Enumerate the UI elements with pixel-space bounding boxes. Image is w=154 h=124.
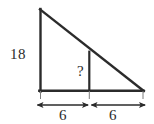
base-left-length-label: 6: [59, 108, 67, 123]
base-right-length-label: 6: [109, 108, 117, 123]
triangle-drawing: [0, 0, 154, 124]
triangle-hypotenuse: [40, 9, 144, 91]
height-label-18: 18: [10, 47, 26, 62]
geometry-figure: 18 ? 6 6: [0, 0, 154, 124]
unknown-height-label: ?: [77, 64, 84, 79]
